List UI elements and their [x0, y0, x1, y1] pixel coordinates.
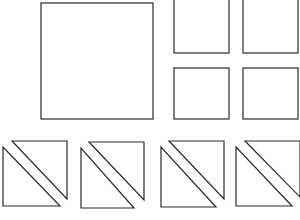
- half-square-triangle-pairs: [3, 141, 300, 208]
- triangle-pair-3: [161, 141, 224, 207]
- shape-diagram: [0, 0, 300, 220]
- triangle-pair-4: [236, 141, 300, 206]
- small-square-bottom-left: [174, 68, 229, 119]
- triangle-pair-2: [81, 142, 144, 208]
- small-square-bottom-right: [243, 68, 298, 119]
- large-square: [41, 3, 153, 119]
- triangle-pair-1: [3, 141, 67, 206]
- small-square-top-right: [243, 0, 298, 53]
- small-square-top-left: [174, 0, 229, 53]
- small-squares-grid: [174, 0, 298, 119]
